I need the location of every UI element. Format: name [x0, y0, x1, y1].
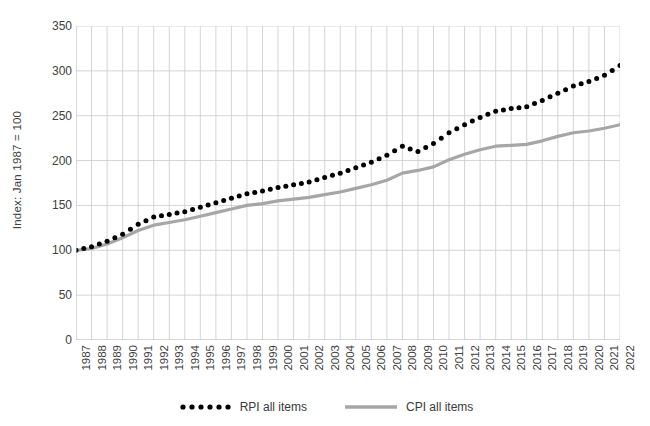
series-dot-rpi — [283, 184, 288, 189]
series-dot-rpi — [97, 242, 102, 247]
y-axis-tick-250: 250 — [20, 109, 72, 123]
axis-spines — [76, 26, 620, 340]
series-dot-rpi — [485, 112, 490, 117]
x-axis-tick-2014: 2014 — [500, 345, 512, 371]
data-point-rpi-1988 — [89, 244, 94, 249]
series-dot-rpi — [392, 148, 397, 153]
series-dot-rpi — [423, 145, 428, 150]
x-axis-tick-1989: 1989 — [111, 345, 123, 371]
series-dot-rpi — [563, 87, 568, 92]
line-marker — [343, 402, 399, 412]
data-point-rpi-1995 — [198, 205, 203, 210]
series-dot-rpi — [221, 198, 226, 203]
series-dot-rpi — [143, 218, 148, 223]
data-point-rpi-2007 — [384, 153, 389, 158]
index-line-chart: Index: Jan 1987 = 100 350300250200150100… — [0, 0, 650, 426]
legend-dot — [180, 404, 185, 409]
series-dot-rpi — [299, 181, 304, 186]
x-axis-tick-1995: 1995 — [204, 345, 216, 371]
series-dot-rpi — [314, 177, 319, 182]
legend-dot — [189, 404, 194, 409]
y-axis-tick-200: 200 — [20, 154, 72, 168]
y-axis-tick-labels: 350300250200150100500 — [16, 0, 72, 360]
y-axis-tick-100: 100 — [20, 243, 72, 257]
data-point-rpi-2012 — [462, 122, 467, 127]
x-axis-tick-2010: 2010 — [437, 345, 449, 371]
series-dot-rpi — [252, 190, 257, 195]
series-dot-rpi — [175, 211, 180, 216]
x-axis-tick-2019: 2019 — [577, 345, 589, 371]
x-axis-tick-labels: 1987198819891990199119921993199419951996… — [76, 345, 620, 395]
data-point-rpi-2010 — [431, 141, 436, 146]
data-point-rpi-2022 — [618, 63, 621, 68]
data-point-rpi-1999 — [260, 189, 265, 194]
series-dot-rpi — [579, 81, 584, 86]
data-point-rpi-1990 — [120, 232, 125, 237]
legend-dot — [198, 404, 203, 409]
series-dot-rpi — [237, 194, 242, 199]
data-point-rpi-2014 — [493, 109, 498, 114]
x-axis-tick-2006: 2006 — [375, 345, 387, 371]
series-dot-rpi — [501, 107, 506, 112]
data-point-rpi-1991 — [136, 222, 141, 227]
legend-dot — [225, 404, 230, 409]
series-dot-rpi — [330, 173, 335, 178]
data-point-rpi-2015 — [509, 106, 514, 111]
x-axis-tick-1990: 1990 — [127, 345, 139, 371]
dotted-marker — [177, 402, 233, 412]
series-dot-rpi — [190, 207, 195, 212]
x-axis-tick-2016: 2016 — [531, 345, 543, 371]
legend-dot — [207, 404, 212, 409]
x-axis-tick-2000: 2000 — [282, 345, 294, 371]
x-axis-tick-2015: 2015 — [515, 345, 527, 371]
series-dot-rpi — [377, 156, 382, 161]
series-dot-rpi — [532, 101, 537, 106]
series-dot-rpi — [594, 76, 599, 81]
x-axis-tick-2012: 2012 — [469, 345, 481, 371]
x-axis-tick-1992: 1992 — [158, 345, 170, 371]
data-point-rpi-2016 — [524, 104, 529, 109]
series-dot-rpi — [112, 235, 117, 240]
series-dot-rpi — [408, 146, 413, 151]
data-point-rpi-2021 — [602, 73, 607, 78]
x-axis-tick-2013: 2013 — [484, 345, 496, 371]
x-axis-tick-2002: 2002 — [313, 345, 325, 371]
data-point-rpi-2004 — [338, 171, 343, 176]
series-dot-rpi — [159, 213, 164, 218]
series-dot-rpi — [361, 163, 366, 168]
x-axis-tick-2007: 2007 — [391, 345, 403, 371]
x-axis-tick-2004: 2004 — [344, 345, 356, 371]
data-point-rpi-2017 — [540, 98, 545, 103]
series-dot-rpi — [346, 168, 351, 173]
gridlines — [76, 26, 620, 340]
series-dot-rpi — [268, 187, 273, 192]
y-axis-tick-300: 300 — [20, 64, 72, 78]
y-axis-tick-0: 0 — [20, 333, 72, 347]
x-axis-tick-2001: 2001 — [298, 345, 310, 371]
data-point-rpi-1989 — [105, 239, 110, 244]
x-axis-tick-1998: 1998 — [251, 345, 263, 371]
data-point-rpi-2006 — [369, 160, 374, 165]
legend-label: CPI all items — [406, 400, 473, 414]
x-axis-tick-2005: 2005 — [360, 345, 372, 371]
series-dot-rpi — [128, 227, 133, 232]
data-point-rpi-1998 — [244, 191, 249, 196]
x-axis-tick-2018: 2018 — [562, 345, 574, 371]
x-axis-tick-1988: 1988 — [96, 345, 108, 371]
data-point-rpi-1994 — [182, 209, 187, 214]
x-axis-tick-1987: 1987 — [80, 345, 92, 371]
x-axis-tick-2021: 2021 — [608, 345, 620, 371]
data-point-rpi-1996 — [213, 200, 218, 205]
series-dot-rpi — [610, 68, 615, 73]
data-point-rpi-2000 — [276, 185, 281, 190]
series-dot-rpi — [81, 246, 86, 251]
x-axis-tick-1999: 1999 — [267, 345, 279, 371]
series-dot-rpi — [470, 119, 475, 124]
series-dot-rpi — [516, 105, 521, 110]
x-axis-tick-1997: 1997 — [235, 345, 247, 371]
series-dot-rpi — [206, 202, 211, 207]
legend-label: RPI all items — [240, 400, 307, 414]
legend-dot — [216, 404, 221, 409]
data-point-rpi-2009 — [415, 149, 420, 154]
data-point-rpi-1997 — [229, 196, 234, 201]
